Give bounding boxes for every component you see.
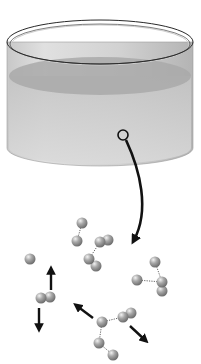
molecule-atom [95, 237, 106, 248]
molecule-atom [25, 254, 36, 265]
molecule-atom [77, 218, 88, 229]
molecule-atom [36, 293, 47, 304]
water-beaker-diagram [0, 0, 201, 364]
hydrogen-bonds [77, 223, 162, 355]
molecule-atom [84, 254, 95, 265]
molecule-atom [72, 236, 83, 247]
motion-arrows [39, 270, 145, 340]
arrow-down-right [130, 326, 145, 340]
molecule-atom [150, 257, 161, 268]
beaker [7, 20, 193, 166]
molecule-atom [132, 275, 143, 286]
arrow-up-left [77, 306, 93, 318]
water-surface [9, 57, 191, 95]
molecule-atom [108, 350, 119, 361]
molecule-atom [94, 338, 105, 349]
molecule-atom [157, 277, 168, 288]
molecule-atom [97, 317, 108, 328]
molecules [25, 218, 168, 361]
molecule-atom [118, 312, 129, 323]
